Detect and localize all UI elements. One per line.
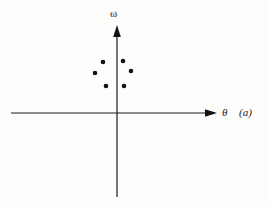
data-point xyxy=(101,60,106,65)
omega-axis-arrowhead xyxy=(113,25,121,37)
data-point xyxy=(93,71,98,76)
panel-caption: (a) xyxy=(239,107,252,118)
data-point-group xyxy=(93,59,134,89)
pole-plot xyxy=(0,0,267,207)
theta-axis-arrowhead xyxy=(205,109,217,117)
theta-axis-label: θ xyxy=(222,107,227,118)
omega-axis-label: ω xyxy=(110,8,117,19)
data-point xyxy=(122,84,127,89)
data-point xyxy=(121,59,126,64)
data-point xyxy=(104,84,109,89)
data-point xyxy=(129,69,134,74)
figure-panel: ω θ (a) xyxy=(0,0,267,207)
